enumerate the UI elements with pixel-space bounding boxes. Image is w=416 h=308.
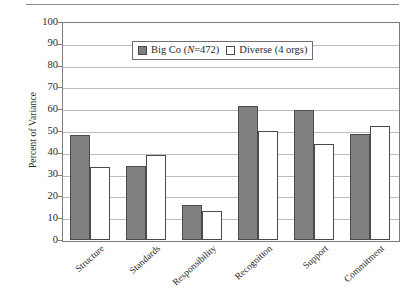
x-tick-label-responsibility: Responsibility <box>123 244 219 308</box>
y-tick-label: 10 <box>10 213 58 224</box>
bar-structure-series-b <box>90 167 110 240</box>
y-tick-label: 0 <box>10 235 58 246</box>
y-tick-label: 30 <box>10 169 58 180</box>
y-tick-mark <box>57 240 62 241</box>
x-tick-label-structure: Structure <box>11 244 107 308</box>
bar-recognition-series-b <box>258 131 278 240</box>
x-tick-label-standards: Standards <box>67 244 163 308</box>
y-tick-label: 20 <box>10 191 58 202</box>
y-tick-label: 100 <box>10 17 58 28</box>
bar-standards-series-b <box>146 155 166 240</box>
bar-support-series-b <box>314 144 334 240</box>
legend-label-series-b: Diverse (4 orgs) <box>239 45 307 56</box>
y-tick-label: 70 <box>10 82 58 93</box>
legend-entry-big-co: Big Co (N=472) <box>138 45 219 56</box>
chart-legend: Big Co (N=472) Diverse (4 orgs) <box>132 41 313 60</box>
x-tick-label-support: Support <box>235 244 331 308</box>
bar-responsibility-series-b <box>202 211 222 240</box>
header-rule <box>26 4 399 5</box>
bar-support-series-a <box>294 110 314 240</box>
y-tick-label: 50 <box>10 126 58 137</box>
bar-commitment-series-a <box>350 134 370 240</box>
y-tick-label: 80 <box>10 60 58 71</box>
bar-responsibility-series-a <box>182 205 202 240</box>
legend-label-series-a: Big Co (N=472) <box>151 45 219 56</box>
legend-swatch-icon-series-b <box>226 46 235 55</box>
y-tick-label: 90 <box>10 38 58 49</box>
x-tick-label-recognition: Recognition <box>179 244 275 308</box>
y-tick-label: 60 <box>10 104 58 115</box>
y-tick-label: 40 <box>10 147 58 158</box>
legend-swatch-icon-series-a <box>138 46 147 55</box>
x-tick-label-commitment: Commitment <box>291 244 387 308</box>
legend-entry-diverse: Diverse (4 orgs) <box>226 45 307 56</box>
bar-standards-series-a <box>126 166 146 240</box>
bar-structure-series-a <box>70 135 90 240</box>
figure: Percent of Variance 01020304050607080901… <box>0 0 416 308</box>
bar-commitment-series-b <box>370 126 390 240</box>
bar-recognition-series-a <box>238 106 258 240</box>
